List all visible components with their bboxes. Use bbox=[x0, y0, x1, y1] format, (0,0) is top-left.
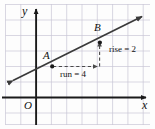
run-label: run = 4 bbox=[60, 70, 86, 79]
rise-label: rise = 2 bbox=[109, 45, 136, 54]
x-axis-label: x bbox=[142, 99, 147, 111]
point-b-marker bbox=[98, 40, 102, 44]
point-a-label: A bbox=[43, 50, 50, 61]
origin-label: O bbox=[24, 100, 32, 111]
y-axis-label: y bbox=[22, 5, 27, 17]
point-a-marker bbox=[50, 64, 54, 68]
point-b-label: B bbox=[94, 22, 101, 33]
point-markers bbox=[50, 40, 102, 68]
slope-diagram-figure: y x O A B rise = 2 run = 4 bbox=[0, 0, 155, 129]
